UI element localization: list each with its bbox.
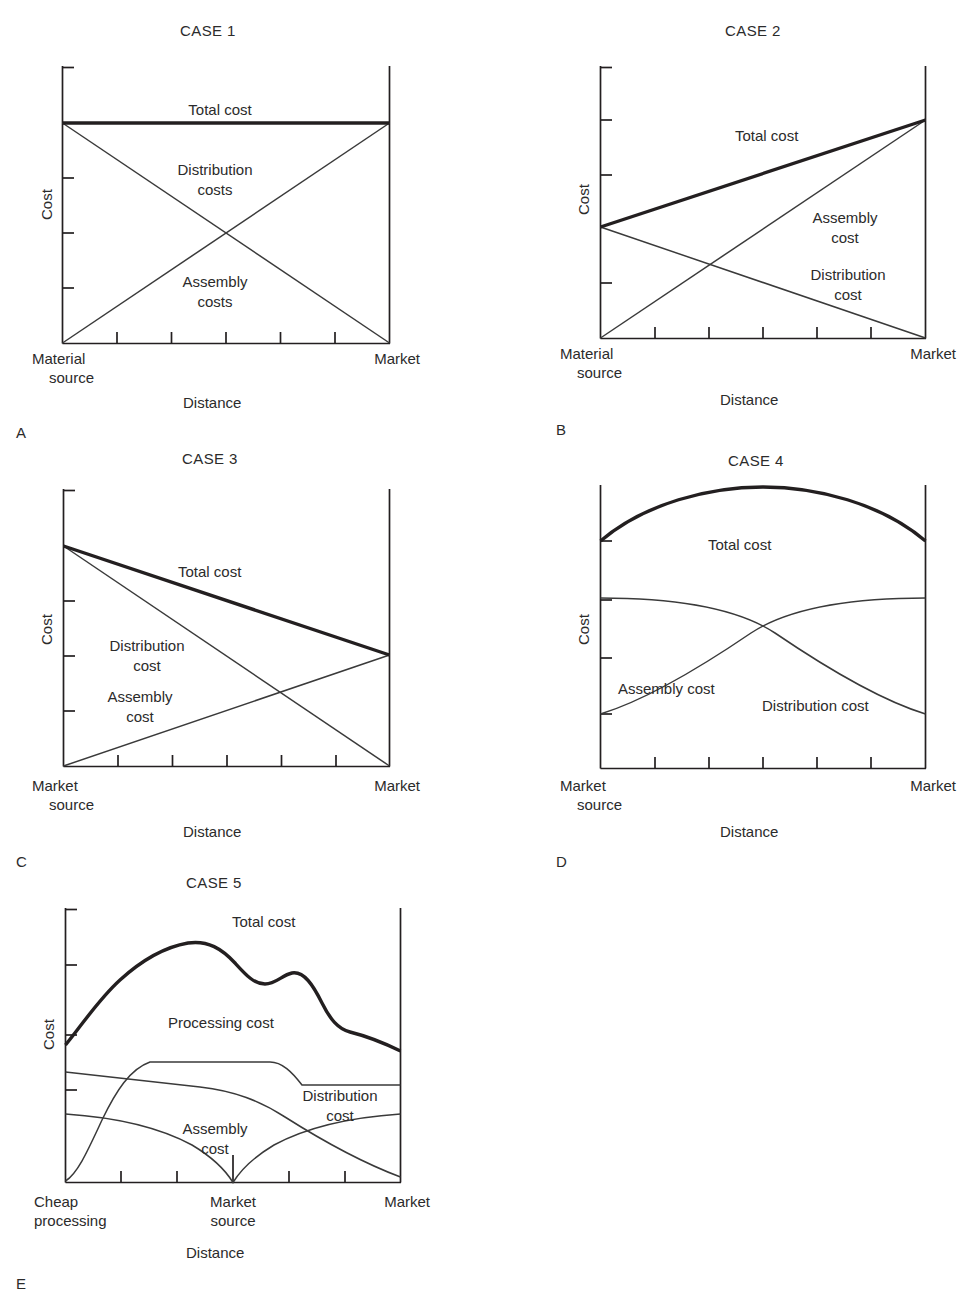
series-label-total-cost-case-1: Total cost: [130, 100, 310, 120]
x-tick-label-right-case-4: Market: [836, 776, 956, 795]
x-tick-label-right-case-1: Market: [300, 349, 420, 368]
x-tick-label-left-case-4: Market source: [560, 776, 680, 814]
series-label-line-2: cost: [773, 285, 923, 305]
series-total-cost-case-4: [601, 487, 926, 541]
y-ticks-case-1: [63, 68, 75, 289]
x-ticks-case-2: [655, 327, 871, 339]
series-label-line-1: Assembly: [120, 272, 310, 292]
y-ticks-case-4: [601, 485, 613, 714]
panel-case-1: CASE 1 Cost Total cost Dis: [0, 0, 489, 440]
x-tick-label-left-line-1: Material: [560, 344, 680, 363]
series-label-line-2: cost: [785, 228, 905, 248]
series-label-line-1: Assembly: [785, 208, 905, 228]
y-ticks-case-3: [64, 491, 76, 712]
series-label-line-1: Assembly: [155, 1119, 275, 1139]
series-label-distribution-cost-case-2: Distribution cost: [773, 265, 923, 305]
panel-letter-case-5: E: [16, 1275, 26, 1292]
y-ticks-case-5: [66, 910, 78, 1091]
panel-letter-case-1: A: [16, 424, 26, 441]
panel-title-case-5: CASE 5: [186, 874, 242, 891]
x-tick-label-left-line-1: Material: [32, 349, 152, 368]
plot-case-3: [30, 485, 430, 785]
x-tick-label-left-line-2: source: [560, 795, 680, 814]
x-tick-label-mid-case-5: Market source: [173, 1192, 293, 1230]
series-label-total-cost-case-3: Total cost: [178, 562, 241, 582]
x-axis-label-case-5: Distance: [186, 1244, 244, 1261]
series-label-total-cost-case-2: Total cost: [735, 126, 798, 146]
x-ticks-case-4: [655, 757, 871, 769]
series-label-distribution-cost-case-5: Distribution cost: [275, 1086, 405, 1126]
series-label-line-1: Distribution: [82, 636, 212, 656]
x-tick-label-right-case-2: Market: [836, 344, 956, 363]
x-tick-label-left-line-2: source: [560, 363, 680, 382]
y-ticks-case-2: [601, 68, 613, 284]
x-tick-label-left-line-1: Market: [32, 776, 152, 795]
panel-case-3: CASE 3 Cost Total cost Distribution cost: [0, 440, 489, 870]
panel-title-case-1: CASE 1: [180, 22, 236, 39]
series-label-assembly-cost-case-4: Assembly cost: [618, 679, 715, 699]
panel-title-case-3: CASE 3: [182, 450, 238, 467]
x-tick-label-left-line-2: source: [32, 795, 152, 814]
panel-title-case-2: CASE 2: [725, 22, 781, 39]
series-total-cost-case-5: [66, 942, 401, 1051]
x-axis-label-case-1: Distance: [183, 394, 241, 411]
x-tick-label-left-line-2: processing: [34, 1211, 174, 1230]
series-label-total-cost-case-5: Total cost: [232, 912, 295, 932]
panel-letter-case-2: B: [556, 421, 566, 438]
x-ticks-case-3: [118, 755, 336, 767]
panel-case-5: CASE 5 Cost Total cost Processing cost: [0, 870, 489, 1299]
series-label-assembly-cost-case-3: Assembly cost: [80, 687, 200, 727]
series-label-assembly-costs-case-1: Assembly costs: [120, 272, 310, 312]
x-tick-label-mid-line-1: Market: [173, 1192, 293, 1211]
x-axis-label-case-2: Distance: [720, 391, 778, 408]
x-tick-label-mid-line-2: source: [173, 1211, 293, 1230]
x-tick-label-left-case-5: Cheap processing: [34, 1192, 174, 1230]
x-ticks-case-1: [117, 332, 335, 344]
panel-title-case-4: CASE 4: [728, 452, 784, 469]
series-label-line-1: Distribution: [120, 160, 310, 180]
series-label-assembly-cost-case-5: Assembly cost: [155, 1119, 275, 1159]
series-label-line-2: cost: [82, 656, 212, 676]
x-tick-label-left-line-2: source: [32, 368, 152, 387]
series-label-total-cost-case-4: Total cost: [708, 535, 771, 555]
x-axis-label-case-4: Distance: [720, 823, 778, 840]
series-label-processing-cost-case-5: Processing cost: [168, 1013, 274, 1033]
series-label-line-2: costs: [120, 180, 310, 200]
series-label-line-2: costs: [120, 292, 310, 312]
panel-letter-case-4: D: [556, 853, 567, 870]
series-label-line-2: cost: [275, 1106, 405, 1126]
series-label-line-1: Distribution: [773, 265, 923, 285]
series-label-line-2: cost: [155, 1139, 275, 1159]
series-label-distribution-costs-case-1: Distribution costs: [120, 160, 310, 200]
x-tick-label-left-case-1: Material source: [32, 349, 152, 387]
plot-case-2: [570, 55, 978, 355]
panel-case-4: CASE 4 Cost Total cost Assembly cost Dis…: [540, 440, 978, 870]
x-tick-label-left-line-1: Cheap: [34, 1192, 174, 1211]
series-label-assembly-cost-case-2: Assembly cost: [785, 208, 905, 248]
series-label-line-2: cost: [80, 707, 200, 727]
series-label-line-1: Distribution: [275, 1086, 405, 1106]
x-axis-label-case-3: Distance: [183, 823, 241, 840]
x-tick-label-left-case-2: Material source: [560, 344, 680, 382]
plot-case-4: [570, 485, 978, 785]
x-tick-label-left-line-1: Market: [560, 776, 680, 795]
x-tick-label-right-case-5: Market: [310, 1192, 430, 1211]
panel-letter-case-3: C: [16, 853, 27, 870]
series-label-distribution-cost-case-3: Distribution cost: [82, 636, 212, 676]
series-label-line-1: Assembly: [80, 687, 200, 707]
panel-case-2: CASE 2 Cost Total cost Assembly cost: [540, 0, 978, 440]
series-label-distribution-cost-case-4: Distribution cost: [762, 696, 869, 716]
x-tick-label-right-case-3: Market: [300, 776, 420, 795]
x-tick-label-left-case-3: Market source: [32, 776, 152, 814]
x-ticks-case-5: [121, 1155, 345, 1183]
